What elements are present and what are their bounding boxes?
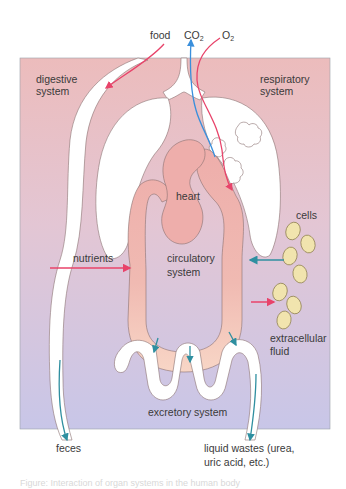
label-o2: O2 [222, 29, 234, 45]
label-respiratory-system: respiratorysystem [260, 73, 310, 97]
label-feces: feces [56, 442, 81, 454]
label-cells: cells [296, 209, 317, 221]
label-co2: CO2 [184, 29, 204, 45]
label-nutrients: nutrients [73, 252, 113, 264]
label-circulatory-system: circulatorysystem [167, 252, 215, 278]
figure-caption: Figure: Interaction of organ systems in … [20, 478, 340, 489]
label-digestive-system: digestivesystem [36, 73, 77, 97]
label-liquid-wastes: liquid wastes (urea,uric acid, etc.) [204, 442, 294, 468]
label-extracellular-fluid: extracellularfluid [270, 332, 327, 357]
label-food: food [150, 29, 170, 41]
label-heart: heart [176, 190, 200, 202]
label-excretory-system: excretory system [148, 406, 227, 418]
